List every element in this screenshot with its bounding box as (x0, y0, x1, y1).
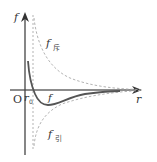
attractive-force-subscript: 引 (55, 134, 62, 143)
origin-label: O (13, 93, 22, 106)
y-axis-label: f (13, 11, 20, 24)
net-force-label: f (47, 92, 54, 103)
attractive-force-label: f (47, 128, 54, 141)
diagram-canvas: f r O r 0 f f 斥 f 引 (0, 0, 157, 162)
equilibrium-subscript: 0 (29, 98, 33, 105)
net-force-curve (28, 61, 120, 105)
repulsive-force-label: f (45, 37, 52, 50)
x-axis-label: r (136, 93, 142, 106)
repulsive-force-curve (34, 18, 140, 90)
force-diagram: f r O r 0 f f 斥 f 引 (0, 0, 157, 162)
repulsive-force-subscript: 斥 (53, 43, 60, 52)
